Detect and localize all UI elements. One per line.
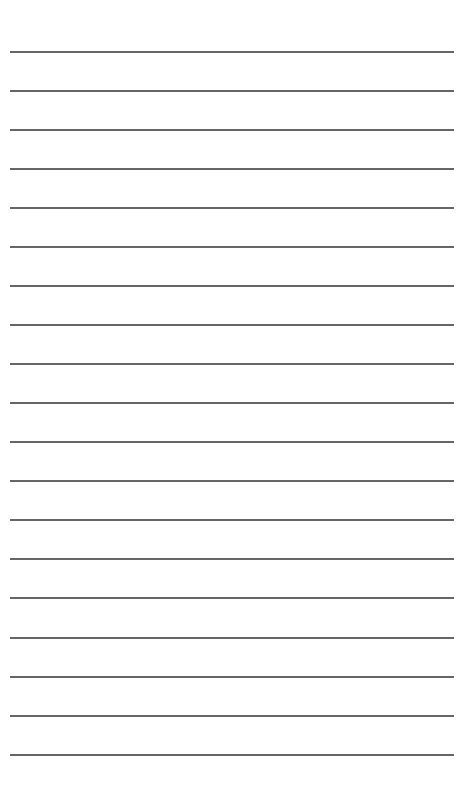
ruled-line: [10, 715, 454, 717]
ruled-line: [10, 558, 454, 560]
ruled-line: [10, 90, 454, 92]
ruled-line: [10, 637, 454, 639]
ruled-line: [10, 285, 454, 287]
ruled-line: [10, 129, 454, 131]
ruled-line: [10, 324, 454, 326]
ruled-line: [10, 168, 454, 170]
ruled-line: [10, 480, 454, 482]
ruled-line: [10, 519, 454, 521]
ruled-line: [10, 51, 454, 53]
ruled-line: [10, 402, 454, 404]
ruled-line: [10, 207, 454, 209]
ruled-line: [10, 441, 454, 443]
ruled-line: [10, 676, 454, 678]
ruled-line: [10, 597, 454, 599]
ruled-line: [10, 246, 454, 248]
ruled-line: [10, 754, 454, 756]
ruled-line: [10, 363, 454, 365]
lined-paper-page: [0, 0, 474, 788]
